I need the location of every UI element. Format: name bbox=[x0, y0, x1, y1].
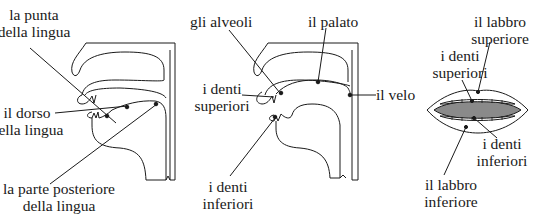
label-lower-lip-line2: inferiore bbox=[418, 193, 484, 210]
label-palate-text: il palato bbox=[308, 13, 358, 30]
label-lower-teeth-line2: inferiori bbox=[196, 195, 260, 212]
leader-palate bbox=[318, 28, 326, 82]
label-lower-teeth-line1: i denti bbox=[196, 178, 260, 195]
label-lower-lip: il labbro inferiore bbox=[418, 176, 484, 210]
label-upper-teeth: i denti superiori bbox=[190, 80, 254, 114]
throat-wave-2 bbox=[340, 175, 346, 178]
label-lower-teeth-front-line1: i denti bbox=[470, 135, 534, 152]
point-dorsum bbox=[125, 105, 129, 109]
point-lower-lip bbox=[464, 125, 467, 128]
label-upper-teeth-line2: superiori bbox=[190, 97, 254, 114]
label-upper-lip-line2: superiore bbox=[464, 30, 536, 47]
label-tongue-tip: la punta della lingua bbox=[0, 6, 72, 40]
point-upper-teeth-front bbox=[470, 99, 473, 102]
nasal-cavity-outline-2 bbox=[254, 43, 348, 82]
label-alveoli: gli alveoli bbox=[190, 13, 252, 30]
tongue-outline bbox=[88, 101, 167, 180]
label-lower-teeth-front-line2: inferiori bbox=[470, 152, 534, 169]
label-lower-lip-line1: il labbro bbox=[418, 176, 484, 193]
label-lower-teeth-front: i denti inferiori bbox=[470, 135, 534, 169]
head-frame bbox=[86, 43, 175, 180]
point-velum bbox=[348, 93, 352, 97]
label-upper-teeth-front-line2: superiori bbox=[424, 64, 496, 81]
label-tongue-tip-line2: della lingua bbox=[0, 23, 72, 40]
throat-wave bbox=[166, 176, 170, 180]
label-tongue-back-line1: la parte posteriore bbox=[0, 180, 134, 197]
upper-lip-outline-2 bbox=[257, 92, 276, 104]
leader-lower-lip bbox=[444, 127, 466, 175]
head-frame-2 bbox=[268, 43, 358, 180]
palate-upper-outline bbox=[82, 80, 164, 95]
palate-outline bbox=[85, 88, 166, 98]
point-tip bbox=[105, 114, 109, 118]
label-lower-teeth: i denti inferiori bbox=[196, 178, 260, 212]
label-palate: il palato bbox=[308, 13, 358, 30]
point-palate bbox=[316, 80, 320, 84]
label-alveoli-text: gli alveoli bbox=[190, 13, 252, 30]
point-lower-teeth bbox=[273, 115, 277, 119]
label-tongue-back: la parte posteriore della lingua bbox=[0, 180, 134, 214]
palate-outline-2 bbox=[276, 80, 350, 94]
label-tongue-tip-line1: la punta bbox=[0, 6, 72, 23]
point-lower-teeth-front bbox=[472, 116, 475, 119]
label-upper-lip-line1: il labbro bbox=[464, 13, 536, 30]
nasal-cavity-outline bbox=[72, 43, 164, 80]
label-velum: il velo bbox=[376, 86, 415, 103]
point-back bbox=[154, 102, 158, 106]
label-velum-text: il velo bbox=[376, 86, 415, 103]
label-upper-teeth-front: i denti superiori bbox=[424, 47, 496, 81]
label-tongue-dorsum: il dorso della lingua bbox=[0, 104, 64, 138]
label-upper-lip: il labbro superiore bbox=[464, 13, 536, 47]
label-tongue-dorsum-line2: della lingua bbox=[0, 121, 64, 138]
label-upper-teeth-front-line1: i denti bbox=[424, 47, 496, 64]
label-upper-teeth-line1: i denti bbox=[190, 80, 254, 97]
tongue-outline-2 bbox=[270, 104, 341, 178]
label-tongue-dorsum-line1: il dorso bbox=[0, 104, 64, 121]
label-tongue-back-line2: della lingua bbox=[0, 197, 134, 214]
point-alveoli bbox=[279, 91, 283, 95]
leader-lower-teeth bbox=[230, 118, 275, 176]
point-upper-lip bbox=[476, 90, 479, 93]
